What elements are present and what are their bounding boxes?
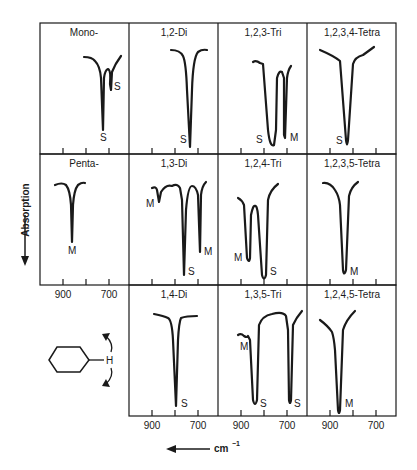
band-label: S [188, 266, 195, 277]
panel-titles: Mono- 1,2-Di 1,2,3-Tri 1,2,3,4-Tetra Pen… [69, 27, 380, 300]
panel-title-penta: Penta- [69, 158, 98, 169]
band-label: S [336, 135, 343, 146]
tick-label-900: 900 [322, 420, 339, 431]
panel-title-123tri: 1,2,3-Tri [245, 27, 282, 38]
x-axis-superscript: −1 [232, 440, 240, 447]
benzene-ring-icon [49, 347, 89, 372]
spectrum-12di [171, 50, 207, 147]
band-label: S [181, 398, 188, 409]
band-label: M [290, 132, 298, 143]
spectrum-124tri [238, 184, 278, 279]
band-label: M [68, 245, 76, 256]
band-label: M [146, 198, 154, 209]
tick-label-700: 700 [190, 420, 207, 431]
hydrogen-label: H [106, 355, 113, 366]
panel-title-1235tetra: 1,2,3,5-Tetra [324, 158, 381, 169]
y-axis-annotation: Absorption [20, 183, 31, 266]
band-label: S [180, 134, 187, 145]
ticks [63, 148, 376, 416]
tick-label-900: 900 [233, 420, 250, 431]
tick-label-900: 900 [55, 289, 72, 300]
band-label: M [350, 266, 358, 277]
spectrum-13di [152, 182, 206, 275]
band-label: M [234, 252, 242, 263]
spectrum-1235tetra [323, 182, 358, 274]
band-label: M [345, 398, 353, 409]
band-label: S [270, 266, 277, 277]
band-label: M [204, 246, 212, 257]
panel-title-12di: 1,2-Di [161, 27, 188, 38]
panel-title-124tri: 1,2,4-Tri [245, 158, 282, 169]
band-label: S [100, 132, 107, 143]
band-label: S [294, 398, 301, 409]
ir-substitution-figure: 900 700 900 700 900 700 900 700 Mono- 1,… [0, 0, 417, 470]
spectrum-mono [84, 56, 121, 130]
tick-label-700: 700 [279, 420, 296, 431]
spectrum-14di [154, 314, 197, 406]
tick-label-700: 700 [101, 289, 118, 300]
band-label: S [260, 398, 267, 409]
panel-title-mono: Mono- [70, 27, 98, 38]
x-axis-annotation: cm −1 [166, 440, 240, 454]
panel-title-1234tetra: 1,2,3,4-Tetra [324, 27, 381, 38]
panel-title-1245tetra: 1,2,4,5-Tetra [324, 289, 381, 300]
panel-title-135tri: 1,3,5-Tri [245, 289, 282, 300]
tick-label-700: 700 [368, 420, 385, 431]
arrow-down-icon [21, 256, 29, 266]
band-label: M [240, 341, 248, 352]
spectrum-1234tetra [320, 47, 374, 145]
row-3-frame [129, 285, 396, 416]
band-label: S [256, 134, 263, 145]
tick-label-900: 900 [144, 420, 161, 431]
band-label: S [114, 81, 121, 92]
spectra [55, 47, 374, 413]
spectrum-penta [55, 183, 85, 242]
panel-title-13di: 1,3-Di [161, 158, 188, 169]
arrow-left-icon [166, 445, 176, 453]
x-axis-label: cm [214, 443, 229, 454]
benzene-oop-bending-diagram: H [49, 333, 113, 387]
spectrum-135tri [238, 311, 302, 404]
spectrum-123tri [253, 61, 291, 145]
panel-title-14di: 1,4-Di [161, 289, 188, 300]
